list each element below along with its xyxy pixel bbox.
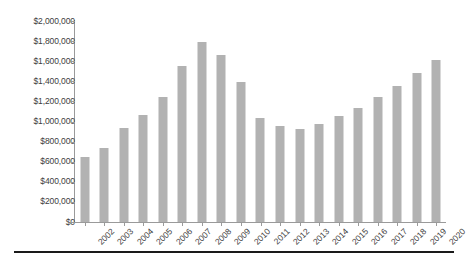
x-axis-tick-label: 2017 — [389, 227, 409, 247]
bar-slot — [387, 21, 407, 222]
x-axis-tick-mark — [319, 222, 320, 226]
x-axis-tick-mark — [221, 222, 222, 226]
bar-slot — [329, 21, 349, 222]
x-axis-tick-label: 2003 — [116, 227, 136, 247]
y-axis-tick-label: $1,600,000 — [3, 57, 75, 66]
bar-slot — [114, 21, 134, 222]
bar-2007[interactable] — [178, 66, 187, 222]
bar-slot — [407, 21, 427, 222]
bar-slot — [426, 21, 446, 222]
bar-slot — [192, 21, 212, 222]
x-axis-tick-mark — [182, 222, 183, 226]
bar-2010[interactable] — [236, 82, 245, 222]
x-axis-tick-mark — [104, 222, 105, 226]
bar-slot — [153, 21, 173, 222]
x-axis-tick-mark — [417, 222, 418, 226]
bar-slot — [368, 21, 388, 222]
x-axis-tick-mark — [280, 222, 281, 226]
x-axis-tick-mark — [124, 222, 125, 226]
x-axis-tick-mark — [436, 222, 437, 226]
x-axis-tick-mark — [397, 222, 398, 226]
y-axis-tick-label: $400,000 — [3, 177, 75, 186]
bar-2020[interactable] — [432, 60, 441, 222]
bar-slot — [95, 21, 115, 222]
bar-2011[interactable] — [256, 118, 265, 222]
x-axis-tick-mark — [241, 222, 242, 226]
x-axis-tick-mark — [261, 222, 262, 226]
x-axis-tick-label: 2011 — [272, 227, 291, 246]
bar-2015[interactable] — [334, 116, 343, 222]
bar-slot — [309, 21, 329, 222]
bar-slot — [270, 21, 290, 222]
bar-2006[interactable] — [158, 97, 167, 222]
x-axis-tick-mark — [300, 222, 301, 226]
bar-2013[interactable] — [295, 129, 304, 222]
bar-slot — [231, 21, 251, 222]
bar-slot — [134, 21, 154, 222]
y-axis-tick-label: $600,000 — [3, 157, 75, 166]
bar-slot — [251, 21, 271, 222]
x-axis-tick-mark — [202, 222, 203, 226]
y-axis-tick-label: $1,800,000 — [3, 37, 75, 46]
x-axis-tick-label: 2002 — [96, 227, 116, 247]
x-axis-tick-label: 2012 — [292, 227, 312, 247]
x-axis-tick-label: 2008 — [213, 227, 233, 247]
y-axis-tick-label: $1,200,000 — [3, 97, 75, 106]
y-axis-tick-label: $1,000,000 — [3, 117, 75, 126]
plot-area — [75, 21, 446, 222]
x-axis-tick-label: 2016 — [370, 227, 390, 247]
y-axis-tick-label: $800,000 — [3, 137, 75, 146]
bar-2009[interactable] — [217, 55, 226, 222]
x-axis-tick-mark — [339, 222, 340, 226]
bar-2012[interactable] — [276, 126, 285, 222]
x-axis-tick-mark — [143, 222, 144, 226]
bar-slot — [212, 21, 232, 222]
x-axis-tick-mark — [85, 222, 86, 226]
y-axis-tick-label: $0 — [3, 218, 75, 227]
bar-2018[interactable] — [393, 86, 402, 222]
x-axis-tick-mark — [358, 222, 359, 226]
y-axis-tick-label: $2,000,000 — [3, 17, 75, 26]
bar-slot — [75, 21, 95, 222]
bar-2002[interactable] — [80, 157, 89, 222]
bottom-divider — [14, 251, 454, 253]
x-axis-tick-label: 2019 — [428, 227, 448, 247]
bar-2008[interactable] — [197, 42, 206, 222]
bar-2003[interactable] — [100, 148, 109, 222]
x-axis-tick-mark — [163, 222, 164, 226]
x-axis-tick-label: 2010 — [253, 227, 273, 247]
x-axis-tick-label: 2007 — [194, 227, 214, 247]
bar-slot — [290, 21, 310, 222]
bar-slot — [173, 21, 193, 222]
bar-slot — [348, 21, 368, 222]
x-axis-tick-label: 2014 — [331, 227, 351, 247]
x-axis-tick-label: 2009 — [233, 227, 253, 247]
x-axis-tick-label: 2005 — [155, 227, 175, 247]
x-axis-tick-label: 2006 — [174, 227, 194, 247]
x-axis-tick-label: 2004 — [135, 227, 155, 247]
y-axis-tick-label: $200,000 — [3, 197, 75, 206]
y-axis: $2,000,000$1,800,000$1,600,000$1,400,000… — [0, 0, 75, 262]
bar-2019[interactable] — [412, 73, 421, 222]
bar-2004[interactable] — [119, 128, 128, 222]
y-axis-tick-mark — [71, 222, 75, 223]
x-axis-tick-mark — [378, 222, 379, 226]
x-axis-tick-label: 2015 — [350, 227, 370, 247]
bar-2017[interactable] — [373, 97, 382, 222]
bar-2005[interactable] — [139, 115, 148, 222]
bar-2016[interactable] — [354, 108, 363, 222]
x-axis-tick-label: 2013 — [311, 227, 331, 247]
y-axis-tick-label: $1,400,000 — [3, 77, 75, 86]
x-axis-tick-label: 2020 — [448, 227, 468, 247]
x-axis-tick-label: 2018 — [409, 227, 429, 247]
bar-2014[interactable] — [315, 124, 324, 222]
